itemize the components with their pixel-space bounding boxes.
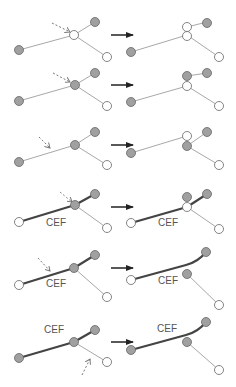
edge bbox=[19, 85, 75, 101]
node-filled bbox=[91, 128, 100, 137]
row-3 bbox=[15, 128, 224, 170]
node-filled bbox=[91, 326, 100, 335]
node-empty bbox=[215, 225, 224, 234]
node-filled bbox=[15, 46, 24, 55]
row-2-before bbox=[15, 69, 112, 111]
cef-label: CEF bbox=[158, 275, 178, 286]
row-6: CEF CEF bbox=[15, 318, 224, 376]
node-filled bbox=[91, 251, 100, 260]
node-filled bbox=[127, 346, 136, 355]
node-empty bbox=[127, 219, 136, 228]
node-filled bbox=[202, 248, 211, 257]
node-empty bbox=[183, 32, 192, 41]
edge bbox=[74, 35, 107, 57]
node-empty bbox=[103, 293, 112, 302]
node-empty bbox=[127, 276, 136, 285]
edge bbox=[187, 86, 219, 106]
row-3-before bbox=[15, 128, 112, 170]
edge bbox=[187, 207, 219, 229]
row-4-before: CEF bbox=[15, 190, 112, 233]
cef-label: CEF bbox=[44, 324, 64, 335]
row-1-after bbox=[127, 19, 224, 62]
edge bbox=[187, 342, 219, 370]
edge bbox=[19, 145, 75, 162]
edge bbox=[131, 136, 187, 153]
node-empty bbox=[103, 224, 112, 233]
cursor-pointer-icon bbox=[53, 73, 70, 82]
node-empty bbox=[215, 102, 224, 111]
cef-edge bbox=[19, 342, 74, 358]
row-6-after: CEF bbox=[127, 318, 224, 375]
cursor-pointer-icon bbox=[82, 359, 90, 375]
node-filled bbox=[183, 72, 192, 81]
node-empty bbox=[183, 23, 192, 32]
cursor-pointer-icon bbox=[38, 258, 50, 271]
node-empty bbox=[183, 203, 192, 212]
node-filled bbox=[183, 270, 192, 279]
node-filled bbox=[91, 190, 100, 199]
node-filled bbox=[91, 69, 100, 78]
node-empty bbox=[103, 358, 112, 367]
cursor-pointer-icon bbox=[39, 137, 50, 148]
node-filled bbox=[15, 354, 24, 363]
row-5-before: CEF bbox=[15, 251, 112, 302]
row-5-after: CEF bbox=[127, 248, 224, 310]
cef-label: CEF bbox=[46, 278, 66, 289]
node-filled bbox=[70, 264, 79, 273]
cef-label: CEF bbox=[158, 217, 178, 228]
node-filled bbox=[127, 48, 136, 57]
node-filled bbox=[203, 69, 212, 78]
node-empty bbox=[183, 82, 192, 91]
row-5: CEF CEF bbox=[15, 248, 224, 310]
edge bbox=[19, 35, 74, 50]
node-filled bbox=[71, 141, 80, 150]
edge-split-diagram: CEF CEF CEF bbox=[0, 0, 236, 387]
node-filled bbox=[183, 142, 192, 151]
node-filled bbox=[183, 193, 192, 202]
node-empty bbox=[103, 102, 112, 111]
node-empty bbox=[15, 218, 24, 227]
node-filled bbox=[202, 318, 211, 327]
node-empty bbox=[183, 132, 192, 141]
edge bbox=[131, 86, 187, 102]
row-3-after bbox=[127, 128, 224, 170]
row-1-before bbox=[15, 18, 112, 62]
edge bbox=[75, 205, 107, 228]
node-empty bbox=[215, 366, 224, 375]
row-4: CEF CEF bbox=[15, 190, 224, 234]
node-empty bbox=[215, 53, 224, 62]
edge bbox=[187, 274, 219, 305]
node-empty bbox=[215, 301, 224, 310]
edge bbox=[74, 268, 107, 297]
node-filled bbox=[203, 190, 212, 199]
cursor-pointer-icon bbox=[52, 23, 70, 32]
node-filled bbox=[71, 81, 80, 90]
node-filled bbox=[127, 149, 136, 158]
node-empty bbox=[15, 281, 24, 290]
node-filled bbox=[70, 338, 79, 347]
node-filled bbox=[91, 18, 100, 27]
row-4-after: CEF bbox=[127, 190, 224, 234]
edge bbox=[131, 35, 187, 52]
cursor-pointer-icon bbox=[60, 192, 72, 202]
node-empty bbox=[103, 161, 112, 170]
node-filled bbox=[15, 158, 24, 167]
node-filled bbox=[71, 201, 80, 210]
node-filled bbox=[203, 128, 212, 137]
row-2-after bbox=[127, 69, 224, 111]
edge bbox=[187, 35, 219, 57]
node-empty bbox=[70, 31, 79, 40]
node-filled bbox=[183, 338, 192, 347]
node-filled bbox=[127, 98, 136, 107]
cef-label: CEF bbox=[157, 323, 177, 334]
node-empty bbox=[103, 53, 112, 62]
edge bbox=[187, 146, 219, 165]
edge bbox=[74, 342, 107, 362]
row-2 bbox=[15, 69, 224, 111]
node-empty bbox=[215, 161, 224, 170]
cef-label: CEF bbox=[46, 217, 66, 228]
edge bbox=[75, 85, 107, 106]
node-filled bbox=[15, 97, 24, 106]
row-6-before: CEF bbox=[15, 324, 112, 375]
row-1 bbox=[15, 18, 224, 62]
